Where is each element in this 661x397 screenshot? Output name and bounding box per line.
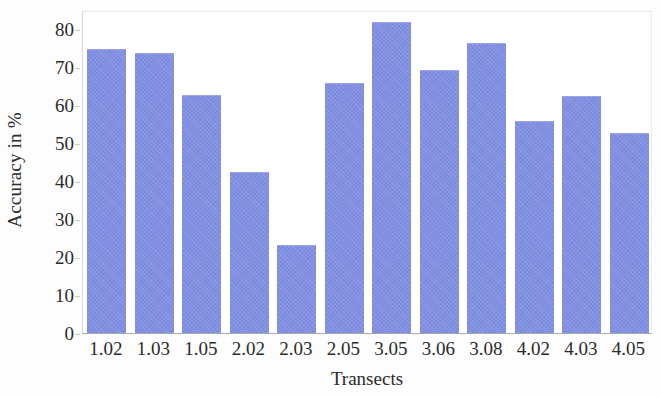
y-tick-label: 20 (55, 247, 74, 269)
y-axis-tick-labels: 01020304050607080 (28, 0, 80, 397)
bar (515, 121, 554, 333)
x-tick-label: 2.03 (279, 338, 312, 360)
x-axis-title: Transects (82, 368, 652, 390)
y-tick-label: 60 (55, 95, 74, 117)
y-tick-mark (75, 30, 80, 31)
x-tick-label: 3.06 (422, 338, 455, 360)
y-axis-title: Accuracy in % (0, 0, 30, 340)
x-tick-label: 4.05 (612, 338, 645, 360)
bar (182, 95, 221, 334)
x-tick-label: 1.02 (89, 338, 122, 360)
bar-chart-figure: Accuracy in % 01020304050607080 1.021.03… (0, 0, 661, 397)
x-tick-label: 4.02 (517, 338, 550, 360)
y-tick-mark (75, 68, 80, 69)
bar (230, 172, 269, 333)
bar-series (83, 12, 651, 333)
bar (562, 96, 601, 333)
x-tick-label: 3.08 (469, 338, 502, 360)
x-tick-label: 1.05 (184, 338, 217, 360)
y-tick-mark (75, 296, 80, 297)
x-tick-label: 3.05 (374, 338, 407, 360)
y-tick-label: 70 (55, 57, 74, 79)
y-tick-mark (75, 258, 80, 259)
x-tick-label: 4.03 (564, 338, 597, 360)
bar (420, 70, 459, 333)
bar (610, 133, 649, 334)
bar (277, 245, 316, 333)
y-tick-mark (75, 334, 80, 335)
x-tick-label: 2.02 (232, 338, 265, 360)
bar (467, 43, 506, 333)
y-tick-label: 50 (55, 133, 74, 155)
bar (372, 22, 411, 333)
y-tick-mark (75, 220, 80, 221)
x-tick-label: 1.03 (137, 338, 170, 360)
y-tick-mark (75, 182, 80, 183)
bar (87, 49, 126, 333)
y-tick-label: 80 (55, 19, 74, 41)
y-tick-mark (75, 106, 80, 107)
y-tick-label: 10 (55, 285, 74, 307)
x-tick-label: 2.05 (327, 338, 360, 360)
y-tick-label: 30 (55, 209, 74, 231)
bar (135, 53, 174, 333)
plot-area (82, 11, 652, 334)
x-axis-tick-labels: 1.021.031.052.022.032.053.053.063.084.02… (82, 338, 652, 366)
y-tick-mark (75, 144, 80, 145)
y-axis-title-text: Accuracy in % (4, 112, 26, 228)
y-tick-label: 40 (55, 171, 74, 193)
y-tick-label: 0 (65, 323, 75, 345)
bar (325, 83, 364, 333)
